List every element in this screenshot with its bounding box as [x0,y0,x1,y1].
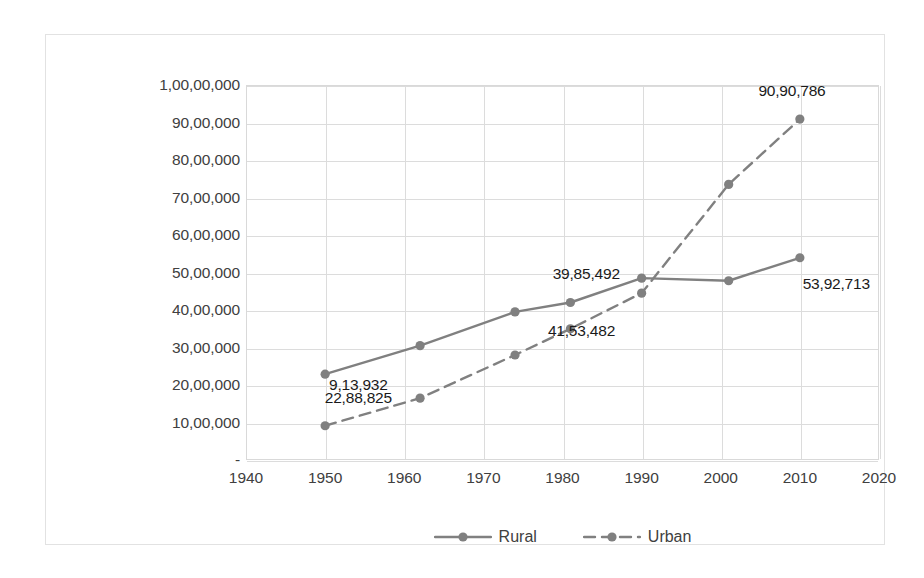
data-point-rural [510,307,519,316]
data-point-rural [795,253,804,262]
chart-legend: RuralUrban [246,522,879,552]
data-point-urban [510,350,519,359]
y-axis-tick: 1,00,00,000 [94,76,240,94]
legend-label: Urban [648,528,692,546]
x-axis-tick: 1950 [308,469,342,487]
y-axis-tick: 40,00,000 [94,301,240,319]
y-axis-tick: 30,00,000 [94,339,240,357]
data-point-urban [724,180,733,189]
chart-frame: -10,00,00020,00,00030,00,00040,00,00050,… [45,34,885,545]
legend-label: Rural [499,528,537,546]
x-axis-tick: 1970 [466,469,500,487]
data-point-rural [637,274,646,283]
x-axis-tick: 2000 [704,469,738,487]
legend-item-urban[interactable]: Urban [583,528,692,546]
data-point-urban [795,114,804,123]
data-label: 90,90,786 [758,82,825,100]
data-label: 53,92,713 [803,275,870,293]
y-axis-tick: 10,00,000 [94,414,240,432]
x-axis-tick-labels: 194019501960197019801990200020102020 [246,469,879,495]
y-axis-tick: 90,00,000 [94,114,240,132]
x-axis-tick: 2010 [783,469,817,487]
data-label: 39,85,492 [553,265,620,283]
y-axis-tick: 20,00,000 [94,376,240,394]
gridline [247,461,878,462]
y-axis-tick: 80,00,000 [94,151,240,169]
data-label: 22,88,825 [325,389,392,407]
gridline [880,86,881,459]
data-point-urban [637,289,646,298]
data-point-urban [321,421,330,430]
legend-swatch-dashed [583,530,641,544]
data-point-rural [724,276,733,285]
data-point-rural [415,341,424,350]
data-point-urban [415,394,424,403]
x-axis-tick: 1960 [387,469,421,487]
x-axis-tick: 2020 [862,469,896,487]
y-axis-tick-labels: -10,00,00020,00,00030,00,00040,00,00050,… [92,85,240,460]
data-point-rural [566,298,575,307]
data-label: 41,53,482 [548,322,615,340]
x-axis-tick: 1980 [545,469,579,487]
y-axis-tick: 70,00,000 [94,189,240,207]
legend-swatch-solid [434,530,492,544]
x-axis-tick: 1990 [624,469,658,487]
y-axis-tick: 60,00,000 [94,226,240,244]
x-axis-tick: 1940 [229,469,263,487]
legend-item-rural[interactable]: Rural [434,528,537,546]
y-axis-tick: - [94,451,240,469]
y-axis-tick: 50,00,000 [94,264,240,282]
